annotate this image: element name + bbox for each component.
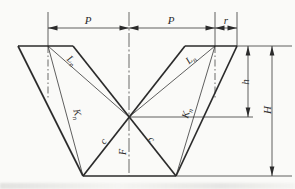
diagram-svg: P P r h H Ln Ln Kn Kn c c F bbox=[0, 0, 295, 189]
label-K-left: Kn bbox=[69, 107, 85, 122]
left-blade-diagonal bbox=[73, 46, 176, 176]
label-c-right: c bbox=[146, 134, 158, 145]
label-H: H bbox=[261, 105, 273, 115]
right-blade-diagonal bbox=[83, 46, 185, 176]
L-line-right bbox=[129, 46, 215, 117]
label-r: r bbox=[224, 14, 229, 26]
label-F: F bbox=[117, 148, 128, 156]
label-K-right: Kn bbox=[179, 106, 195, 121]
label-P-right: P bbox=[167, 14, 175, 26]
scan-noise-strip bbox=[0, 183, 295, 189]
die-outline bbox=[18, 46, 237, 176]
label-h: h bbox=[239, 79, 251, 85]
L-line-left bbox=[48, 46, 129, 117]
right-outer-edge bbox=[176, 46, 237, 176]
label-L-left: Ln bbox=[63, 52, 80, 69]
label-P-left: P bbox=[84, 14, 92, 26]
figure-canvas: P P r h H Ln Ln Kn Kn c c F bbox=[0, 0, 295, 189]
